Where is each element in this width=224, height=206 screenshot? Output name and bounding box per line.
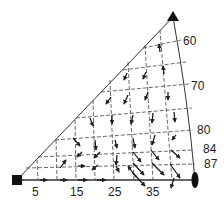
right-edge-label-60: 60: [183, 35, 196, 47]
bottom-axis-label-25: 25: [108, 186, 121, 198]
bottom-axis-label-35: 35: [146, 186, 159, 198]
triangular-vector-field-diagram: [0, 0, 224, 206]
bottom-axis-label-15: 15: [70, 186, 83, 198]
right-edge-label-80: 80: [197, 124, 210, 136]
bottom-axis-label-5: 5: [32, 186, 39, 198]
lens-vertex-marker: [192, 172, 199, 188]
dashed-grid: [26, 30, 195, 180]
right-edge-label-87: 87: [204, 158, 217, 170]
right-edge-label-70: 70: [191, 80, 204, 92]
right-edge-label-84: 84: [203, 143, 216, 155]
triangle-vertex-marker: [167, 11, 179, 21]
square-vertex-marker: [12, 175, 22, 185]
